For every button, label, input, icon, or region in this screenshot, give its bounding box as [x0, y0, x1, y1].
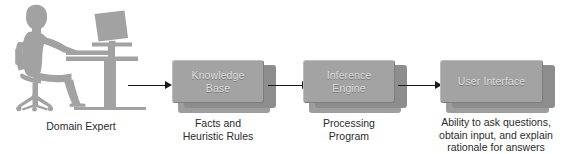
arrow-shaft — [398, 85, 437, 86]
node-inference-engine[interactable]: Inference Engine — [303, 60, 395, 103]
node-knowledge-base[interactable]: Knowledge Base — [172, 60, 264, 103]
arrow-inference-engine-to-user-interface — [398, 81, 443, 90]
arrow-shaft — [128, 85, 167, 86]
node-label: Knowledge Base — [188, 69, 249, 95]
node-face: Inference Engine — [303, 60, 395, 103]
node-face: Knowledge Base — [172, 60, 264, 103]
caption-knowledge-base: Facts and Heuristic Rules — [166, 117, 270, 142]
node-label: Inference Engine — [323, 69, 376, 95]
person-at-desk-silhouette — [14, 4, 146, 112]
caption-user-interface: Ability to ask questions, obtain input, … — [418, 116, 574, 154]
node-user-interface[interactable]: User Interface — [440, 60, 543, 103]
caption-domain-expert: Domain Expert — [15, 120, 147, 133]
node-face: User Interface — [440, 60, 543, 103]
arrow-head — [165, 81, 172, 89]
arrow-shaft — [268, 85, 304, 86]
diagram-canvas: Domain Expert Knowledge Base Facts and H… — [0, 0, 577, 154]
node-label: User Interface — [454, 75, 529, 88]
arrow-expert-to-knowledge-base — [128, 81, 173, 90]
caption-inference-engine: Processing Program — [297, 117, 401, 142]
